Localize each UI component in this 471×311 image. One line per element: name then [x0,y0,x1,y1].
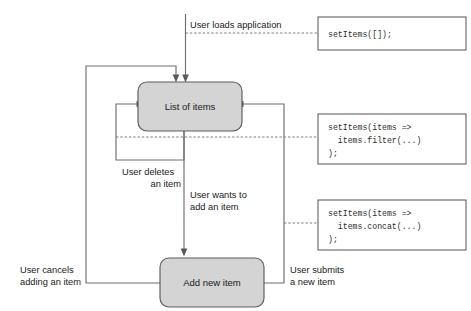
code-box-set-items-filter-line-2: items.filter(...) [328,136,421,145]
code-box-set-items-concat-line-2: items.concat(...) [328,222,421,231]
edge-label-loads-application: User loads application [190,20,281,30]
edge-label-submits-new-item: User submits a new item [290,265,345,287]
edge-label-submits-new-item-line-2: a new item [290,277,335,287]
code-box-set-items-concat-line-3: ); [328,235,338,244]
edge-label-cancels-adding: User cancels adding an item [20,265,81,287]
node-add-new-item-label: Add new item [183,277,241,288]
code-box-set-items-filter-line-1: setItems(items => [328,123,412,132]
edge-label-cancels-adding-line-1: User cancels [20,265,74,275]
edge-label-deletes-an-item-line-1: User deletes [122,167,175,177]
code-box-set-items-empty[interactable]: setItems([]); [318,17,466,50]
diagram-canvas: List of items Add new item setItems([]);… [0,0,471,311]
code-box-set-items-concat-line-1: setItems(items => [328,209,412,218]
edge-label-wants-to-add-line-2: add an item [190,202,239,212]
edge-label-wants-to-add-line-1: User wants to [190,190,247,200]
code-box-set-items-empty-line-1: setItems([]); [328,30,392,39]
edge-label-deletes-an-item-line-2: an item [151,179,182,189]
arrowhead-user-wants-to-add [181,249,188,257]
node-list-of-items-label: List of items [165,101,216,112]
code-box-set-items-concat[interactable]: setItems(items => items.concat(...) ); [318,200,466,250]
state-diagram: List of items Add new item setItems([]);… [0,0,471,311]
edge-label-cancels-adding-line-2: adding an item [20,277,81,287]
edge-label-deletes-an-item: User deletes an item [122,167,181,189]
node-add-new-item[interactable]: Add new item [160,258,264,307]
arrowhead-user-cancels [173,75,180,83]
edge-label-submits-new-item-line-1: User submits [290,265,345,275]
arrowhead-initial-load [182,75,189,83]
code-box-set-items-filter-line-3: ); [328,149,338,158]
node-list-of-items[interactable]: List of items [138,82,242,131]
edge-label-wants-to-add: User wants to add an item [190,190,247,212]
code-box-set-items-filter[interactable]: setItems(items => items.filter(...) ); [318,114,466,164]
edge-label-loads-application-line-1: User loads application [190,20,281,30]
